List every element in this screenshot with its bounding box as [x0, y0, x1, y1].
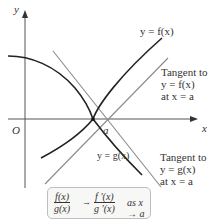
curve-g-label: y = g(x) — [97, 150, 129, 162]
origin-label: O — [12, 124, 20, 136]
tangent-f-label: Tangent to y = f(x) at x = a — [161, 66, 208, 102]
ratio-g-denominator: g(x) — [54, 203, 70, 214]
ratio-gprime-denominator: g ′(x) — [94, 203, 115, 214]
curve-f-label: y = f(x) — [140, 25, 174, 37]
x-axis-label: x — [202, 122, 207, 134]
y-axis-arrow-icon — [22, 10, 28, 18]
ratio-fprime-numerator: f ′(x) — [94, 191, 115, 203]
tangent-f-label-line1: Tangent to — [161, 66, 208, 78]
tangent-g-label-line2: y = g(x) — [160, 163, 207, 175]
tangent-g-label-line1: Tangent to — [160, 151, 207, 163]
ratio-f-numerator: f(x) — [54, 191, 70, 203]
curve-f — [8, 38, 162, 119]
arrow-icon: → — [82, 197, 91, 207]
curve-g — [41, 119, 142, 175]
point-a — [91, 117, 95, 121]
limit-condition: as x → a — [127, 197, 150, 219]
y-axis-label: y — [14, 3, 19, 15]
lhopital-formula-box: f(x) g(x) → f ′(x) g ′(x) as x → a — [47, 187, 151, 219]
tangent-g-label-line3: at x = a — [160, 175, 207, 187]
x-axis-arrow-icon — [190, 116, 198, 122]
point-a-label: a — [103, 124, 109, 136]
ratio-derivatives: f ′(x) g ′(x) — [94, 191, 115, 214]
tangent-g-label: Tangent to y = g(x) at x = a — [160, 151, 207, 187]
tangent-f-label-line3: at x = a — [161, 90, 208, 102]
tangent-f-label-line2: y = f(x) — [161, 78, 208, 90]
ratio-fg: f(x) g(x) — [54, 191, 70, 214]
